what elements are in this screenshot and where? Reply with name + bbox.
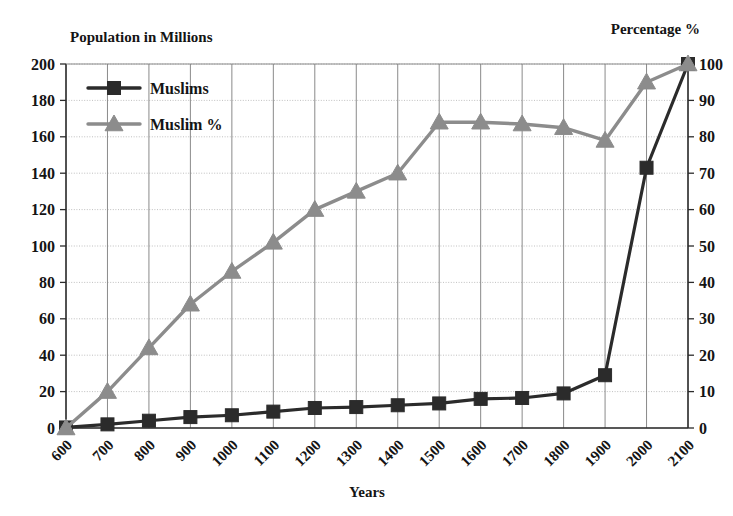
data-point-marker — [225, 409, 238, 422]
x-axis-tick-label: 2100 — [665, 437, 698, 470]
x-axis-labels: 6007008009001000110012001300140015001600… — [48, 437, 697, 470]
right-axis-tick-label: 0 — [699, 420, 707, 437]
left-axis-tick-label: 180 — [31, 92, 55, 109]
left-axis-title: Population in Millions — [70, 29, 213, 45]
data-point-marker — [223, 262, 241, 278]
x-axis-tick-label: 1300 — [333, 437, 366, 470]
left-axis-tick-label: 120 — [31, 201, 55, 218]
x-axis-tick-label: 700 — [89, 437, 116, 464]
x-axis-tick-label: 1100 — [251, 437, 283, 469]
legend-label-1: Muslims — [150, 80, 209, 97]
right-axis: 0102030405060708090100 — [688, 56, 723, 437]
left-axis-tick-label: 160 — [31, 128, 55, 145]
data-point-marker — [101, 418, 114, 431]
data-point-marker — [433, 397, 446, 410]
x-axis-tick-label: 1500 — [416, 437, 449, 470]
left-axis-tick-label: 0 — [47, 420, 55, 437]
legend-marker-1 — [108, 82, 121, 95]
data-point-marker — [640, 161, 653, 174]
right-axis-tick-label: 100 — [699, 56, 723, 73]
left-axis-tick-label: 100 — [31, 238, 55, 255]
x-axis-tick-label: 2000 — [623, 437, 656, 470]
x-axis-tick-label: 600 — [48, 437, 75, 464]
left-axis-tick-label: 140 — [31, 165, 55, 182]
population-percentage-line-chart: 0204060801001201401601802000102030405060… — [0, 0, 733, 516]
data-point-marker — [474, 392, 487, 405]
right-axis-tick-label: 60 — [699, 201, 715, 218]
legend-label-2: Muslim % — [150, 116, 222, 133]
left-axis-tick-label: 80 — [39, 274, 55, 291]
data-point-marker — [557, 387, 570, 400]
left-axis-tick-label: 200 — [31, 56, 55, 73]
x-axis-tick-label: 1000 — [208, 437, 241, 470]
data-point-marker — [142, 414, 155, 427]
data-point-marker — [267, 405, 280, 418]
left-axis-tick-label: 20 — [39, 383, 55, 400]
right-axis-tick-label: 90 — [699, 92, 715, 109]
right-axis-tick-label: 80 — [699, 128, 715, 145]
data-point-marker — [350, 401, 363, 414]
left-axis: 020406080100120140160180200 — [31, 56, 66, 437]
x-axis-tick-label: 1400 — [374, 437, 407, 470]
right-axis-tick-label: 50 — [699, 238, 715, 255]
data-point-marker — [184, 411, 197, 424]
right-axis-tick-label: 30 — [699, 310, 715, 327]
right-axis-tick-label: 40 — [699, 274, 715, 291]
data-point-marker — [308, 401, 321, 414]
x-axis-tick-label: 1700 — [499, 437, 532, 470]
x-axis-tick-label: 1800 — [540, 437, 573, 470]
x-axis-tick-label: 1900 — [582, 437, 615, 470]
data-point-marker — [516, 391, 529, 404]
x-axis-tick-label: 800 — [131, 437, 158, 464]
legend: MuslimsMuslim % — [88, 80, 222, 133]
x-axis-tick-label: 1200 — [291, 437, 324, 470]
left-axis-tick-label: 60 — [39, 310, 55, 327]
data-point-marker — [391, 399, 404, 412]
right-axis-tick-label: 10 — [699, 383, 715, 400]
x-axis-tick-label: 1600 — [457, 437, 490, 470]
chart-container: 0204060801001201401601802000102030405060… — [0, 0, 733, 516]
x-axis-title: Years — [349, 484, 385, 500]
data-point-marker — [599, 369, 612, 382]
x-axis-tick-label: 900 — [172, 437, 199, 464]
right-axis-tick-label: 70 — [699, 165, 715, 182]
left-axis-tick-label: 40 — [39, 347, 55, 364]
right-axis-tick-label: 20 — [699, 347, 715, 364]
right-axis-title: Percentage % — [611, 21, 700, 37]
